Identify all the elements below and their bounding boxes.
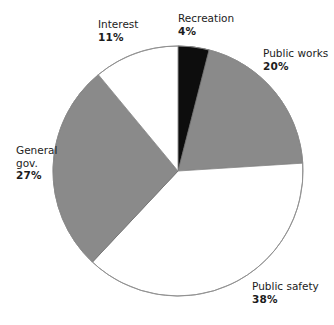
pie-label-interest-value: 11% <box>98 31 138 44</box>
pie-label-general-gov-name-line2: gov. <box>16 157 57 170</box>
pie-slices-group <box>53 46 303 296</box>
pie-label-interest: Interest 11% <box>98 18 138 43</box>
pie-label-interest-name: Interest <box>98 18 138 31</box>
pie-label-general-gov: General gov. 27% <box>16 144 57 182</box>
pie-label-public-safety-value: 38% <box>252 293 319 306</box>
pie-label-public-works-name: Public works <box>263 47 328 60</box>
pie-label-public-safety-name: Public safety <box>252 280 319 293</box>
pie-label-public-safety: Public safety 38% <box>252 280 319 305</box>
pie-label-recreation-name: Recreation <box>178 12 234 25</box>
pie-label-recreation: Recreation 4% <box>178 12 234 37</box>
pie-label-general-gov-name: General <box>16 144 57 157</box>
pie-chart: Interest 11% Recreation 4% Public works … <box>0 0 334 325</box>
pie-label-recreation-value: 4% <box>178 25 234 38</box>
pie-label-public-works: Public works 20% <box>263 47 328 72</box>
pie-label-general-gov-value: 27% <box>16 169 57 182</box>
pie-label-public-works-value: 20% <box>263 60 328 73</box>
